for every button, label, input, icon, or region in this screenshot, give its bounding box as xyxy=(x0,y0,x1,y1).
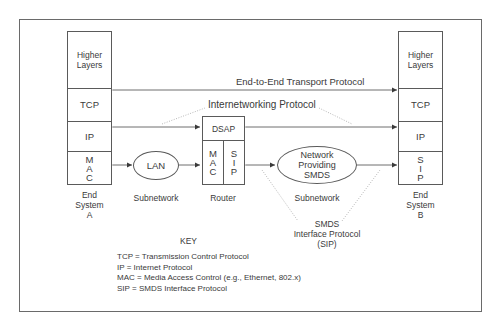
higher-layers-line2: Layers xyxy=(77,60,103,70)
end-system-a-caption: End System A xyxy=(67,190,112,220)
end-system-a-higher-layers: Higher Layers xyxy=(67,31,112,89)
sip-letter: P xyxy=(417,173,423,182)
key-entry-tcp: TCP = Transmission Control Protocol xyxy=(117,252,301,263)
higher-layers-line2: Layers xyxy=(408,60,434,70)
end-system-a-tcp: TCP xyxy=(67,88,112,122)
mac-letter: C xyxy=(86,173,93,182)
smds-network-ellipse: Network Providing SMDS xyxy=(277,146,357,184)
internetworking-protocol-label: Internetworking Protocol xyxy=(208,100,316,110)
internetworking-dotted-right xyxy=(319,108,352,124)
dsap-label: DSAP xyxy=(212,124,235,134)
key-entry-sip: SIP = SMDS Interface Protocol xyxy=(117,284,301,295)
sip-dotted-right xyxy=(342,170,380,221)
key-entry-mac: MAC = Media Access Control (e.g., Ethern… xyxy=(117,273,301,284)
key-entry-ip: IP = Internet Protocol xyxy=(117,263,301,274)
router-sip: S I P xyxy=(223,140,245,185)
ip-label: IP xyxy=(85,132,94,142)
lan-ellipse: LAN xyxy=(133,151,179,180)
tcp-label: TCP xyxy=(80,100,99,110)
lan-caption: Subnetwork xyxy=(126,193,186,203)
higher-layers-line1: Higher xyxy=(408,50,434,60)
end-system-b-sip: S I P xyxy=(398,151,443,185)
higher-layers-line1: Higher xyxy=(77,50,103,60)
router-dsap: DSAP xyxy=(202,116,245,141)
lan-label: LAN xyxy=(147,161,165,171)
end-system-b-ip: IP xyxy=(398,121,443,152)
end-system-b-caption: End System B xyxy=(398,190,443,220)
tcp-label: TCP xyxy=(411,100,430,110)
internetworking-dotted-left xyxy=(162,108,205,124)
end-system-b-tcp: TCP xyxy=(398,88,443,122)
router-mac: M A C xyxy=(202,140,224,185)
router-caption: Router xyxy=(193,193,253,203)
end-system-a-ip: IP xyxy=(67,121,112,152)
ip-label: IP xyxy=(416,132,425,142)
smds-caption: Subnetwork xyxy=(287,193,347,203)
end-system-a-mac: M A C xyxy=(67,151,112,185)
key-list: TCP = Transmission Control Protocol IP =… xyxy=(117,252,301,294)
end-to-end-protocol-label: End-to-End Transport Protocol xyxy=(236,77,364,87)
key-title: KEY xyxy=(180,236,197,246)
sip-callout: SMDS Interface Protocol (SIP) xyxy=(277,219,377,249)
end-system-b-higher-layers: Higher Layers xyxy=(398,31,443,89)
